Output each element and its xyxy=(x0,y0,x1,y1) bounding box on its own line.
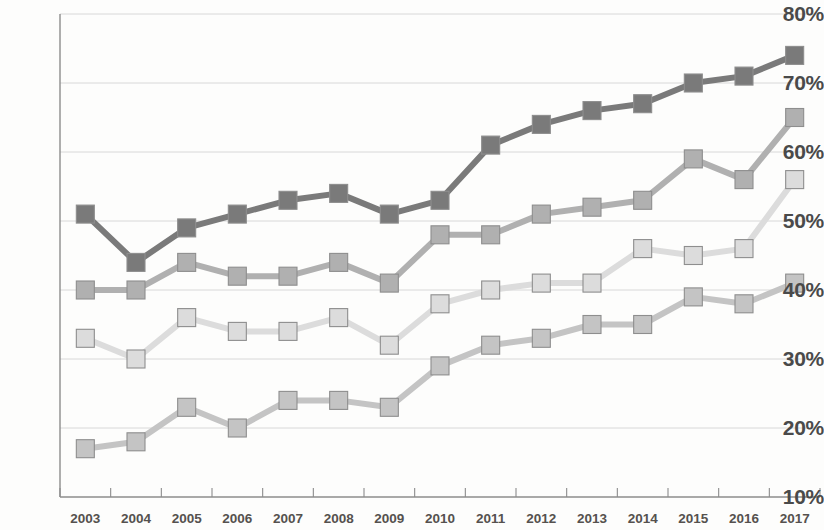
data-point xyxy=(330,309,348,327)
data-point xyxy=(178,398,196,416)
data-point xyxy=(380,274,398,292)
data-point xyxy=(482,136,500,154)
data-point xyxy=(330,253,348,271)
data-point xyxy=(380,336,398,354)
data-point xyxy=(330,184,348,202)
data-point xyxy=(634,316,652,334)
data-point xyxy=(532,274,550,292)
data-point xyxy=(279,391,297,409)
data-point xyxy=(583,316,601,334)
data-point xyxy=(786,171,804,189)
data-point xyxy=(684,288,702,306)
data-point xyxy=(127,281,145,299)
chart-plot-area xyxy=(0,0,824,530)
data-point xyxy=(178,253,196,271)
data-point xyxy=(330,391,348,409)
data-point xyxy=(380,205,398,223)
data-point xyxy=(279,191,297,209)
data-point xyxy=(684,247,702,265)
data-point xyxy=(127,350,145,368)
data-point xyxy=(178,219,196,237)
data-point xyxy=(786,274,804,292)
data-point xyxy=(532,115,550,133)
data-point xyxy=(735,295,753,313)
data-point xyxy=(76,205,94,223)
data-point xyxy=(735,171,753,189)
line-chart: 80%70%60%50%40%30%20%10% 200320042005200… xyxy=(0,0,824,530)
data-point xyxy=(532,205,550,223)
data-point xyxy=(279,322,297,340)
data-point xyxy=(684,74,702,92)
data-point xyxy=(532,329,550,347)
data-point xyxy=(786,46,804,64)
data-point xyxy=(482,226,500,244)
data-point xyxy=(735,240,753,258)
data-point xyxy=(127,433,145,451)
data-point xyxy=(431,295,449,313)
data-point xyxy=(431,226,449,244)
data-point xyxy=(228,267,246,285)
data-point xyxy=(431,191,449,209)
data-point xyxy=(482,336,500,354)
data-point xyxy=(735,67,753,85)
data-point xyxy=(634,240,652,258)
data-point xyxy=(76,440,94,458)
data-point xyxy=(583,274,601,292)
data-point xyxy=(279,267,297,285)
data-point xyxy=(178,309,196,327)
data-point xyxy=(684,150,702,168)
data-point xyxy=(380,398,398,416)
data-point xyxy=(583,102,601,120)
data-point xyxy=(76,281,94,299)
data-point xyxy=(228,205,246,223)
data-point xyxy=(431,357,449,375)
data-point xyxy=(786,109,804,127)
data-point xyxy=(482,281,500,299)
data-point xyxy=(583,198,601,216)
data-point xyxy=(634,95,652,113)
data-point xyxy=(76,329,94,347)
data-point xyxy=(228,419,246,437)
data-point xyxy=(127,253,145,271)
data-point xyxy=(228,322,246,340)
data-point xyxy=(634,191,652,209)
